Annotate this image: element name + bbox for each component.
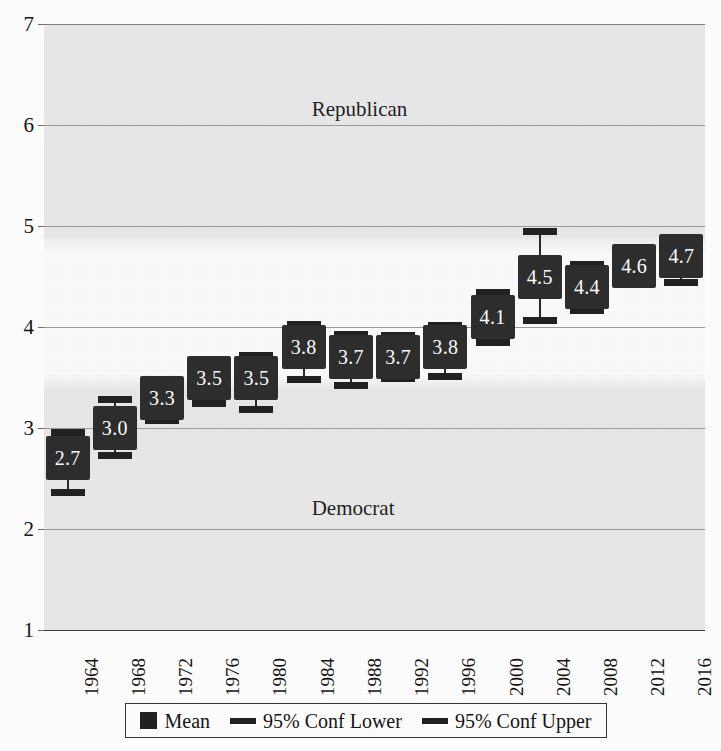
legend-dash-icon <box>422 718 448 724</box>
y-axis: 1234567 <box>0 0 44 751</box>
mean-marker-2008: 4.4 <box>565 265 609 309</box>
confidence-lower-cap <box>523 317 557 324</box>
x-axis-tick-label-1984: 1984 <box>318 658 337 696</box>
confidence-upper-cap <box>523 228 557 235</box>
y-axis-tick-label-4: 4 <box>0 317 34 338</box>
x-axis-tick-label-1988: 1988 <box>365 658 384 696</box>
confidence-lower-cap <box>334 382 368 389</box>
legend-label: 95% Conf Upper <box>455 711 592 731</box>
gridline-7 <box>44 24 705 25</box>
y-axis-tick-6 <box>38 125 44 126</box>
x-axis-tick-label-2012: 2012 <box>648 658 667 696</box>
confidence-lower-cap <box>192 400 226 407</box>
confidence-upper-cap <box>98 396 132 403</box>
confidence-lower-cap <box>239 406 273 413</box>
x-axis-tick-label-1976: 1976 <box>223 658 242 696</box>
mean-marker-1972: 3.3 <box>140 376 184 420</box>
confidence-upper-cap <box>51 429 85 436</box>
mean-marker-1988: 3.7 <box>329 335 373 379</box>
mean-marker-1984: 3.8 <box>282 325 326 369</box>
confidence-lower-cap <box>428 373 462 380</box>
mean-marker-1964: 2.7 <box>46 436 90 480</box>
region-label-democrat: Democrat <box>312 496 395 521</box>
gridline-2 <box>44 529 705 530</box>
gridline-4 <box>44 327 705 328</box>
mean-marker-2016: 4.7 <box>659 234 703 278</box>
x-axis-tick-label-2000: 2000 <box>507 658 526 696</box>
y-axis-tick-5 <box>38 226 44 227</box>
legend-item-mean[interactable]: Mean <box>140 711 210 731</box>
x-axis-tick-label-2016: 2016 <box>695 658 714 696</box>
confidence-lower-cap <box>476 339 510 346</box>
y-axis-tick-7 <box>38 24 44 25</box>
legend-square-icon <box>140 712 157 729</box>
x-axis-tick-label-2004: 2004 <box>554 658 573 696</box>
confidence-lower-cap <box>51 489 85 496</box>
gridline-3 <box>44 428 705 429</box>
mean-marker-2000: 4.1 <box>471 295 515 339</box>
x-axis: 1964196819721976198019841988199219962000… <box>44 630 705 702</box>
x-axis-tick-label-1996: 1996 <box>459 658 478 696</box>
legend-item-95-conf-lower[interactable]: 95% Conf Lower <box>230 711 402 731</box>
legend-label: Mean <box>164 711 210 731</box>
y-axis-tick-4 <box>38 327 44 328</box>
mean-marker-1992: 3.7 <box>376 335 420 379</box>
mean-marker-1996: 3.8 <box>423 325 467 369</box>
x-axis-tick-label-1964: 1964 <box>82 658 101 696</box>
mean-marker-2012: 4.6 <box>612 244 656 288</box>
legend-item-95-conf-upper[interactable]: 95% Conf Upper <box>422 711 592 731</box>
x-axis-tick-label-1972: 1972 <box>176 658 195 696</box>
x-axis-tick-label-1992: 1992 <box>412 658 431 696</box>
y-axis-tick-label-6: 6 <box>0 115 34 136</box>
region-label-republican: Republican <box>312 97 408 122</box>
x-axis-tick-label-2008: 2008 <box>601 658 620 696</box>
legend-dash-icon <box>230 718 256 724</box>
chart-plot-area: RepublicanDemocrat 2.73.03.33.53.53.83.7… <box>44 24 705 630</box>
y-axis-tick-label-3: 3 <box>0 418 34 439</box>
y-axis-tick-label-7: 7 <box>0 14 34 35</box>
chart-legend: Mean95% Conf Lower95% Conf Upper <box>125 703 607 738</box>
legend-label: 95% Conf Lower <box>263 711 402 731</box>
y-axis-tick-3 <box>38 428 44 429</box>
mean-marker-1968: 3.0 <box>93 406 137 450</box>
confidence-lower-cap <box>287 376 321 383</box>
x-axis-tick-label-1968: 1968 <box>129 658 148 696</box>
y-axis-tick-2 <box>38 529 44 530</box>
mean-marker-1976: 3.5 <box>187 356 231 400</box>
confidence-lower-cap <box>98 452 132 459</box>
y-axis-tick-label-1: 1 <box>0 620 34 641</box>
x-axis-tick-label-1980: 1980 <box>270 658 289 696</box>
confidence-lower-cap <box>664 279 698 286</box>
mean-marker-2004: 4.5 <box>518 255 562 299</box>
gridline-6 <box>44 125 705 126</box>
y-axis-tick-label-2: 2 <box>0 519 34 540</box>
mean-marker-1980: 3.5 <box>234 356 278 400</box>
y-axis-tick-label-5: 5 <box>0 216 34 237</box>
gridline-5 <box>44 226 705 227</box>
